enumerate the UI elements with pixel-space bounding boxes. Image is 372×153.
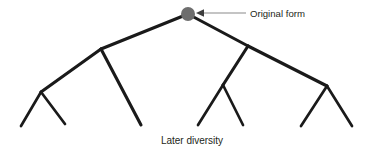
branch-left-junction-to-left-fork [41, 49, 101, 92]
branch-root-to-left-junction [101, 14, 188, 49]
branch-inner-fork-to-tip-5 [223, 85, 243, 125]
pointer-annotation [196, 9, 246, 17]
branch-right-junction-to-outer-fork [248, 46, 327, 86]
branch-right-junction-to-inner-fork [223, 46, 248, 85]
branch-root-to-right-junction [188, 14, 248, 46]
branch-inner-fork-to-tip-4 [198, 85, 223, 125]
tree-canvas: Original form Later diversity [0, 0, 372, 153]
root-node-circle [181, 7, 195, 21]
branch-left-junction-to-tip-3 [101, 49, 141, 125]
branch-outer-fork-to-tip-7 [327, 86, 352, 126]
evolution-tree-diagram: Original form Later diversity [0, 0, 372, 153]
branch-outer-fork-to-tip-6 [301, 86, 327, 126]
bottom-caption: Later diversity [161, 135, 223, 146]
arrow-left-icon [196, 9, 204, 17]
branch-group [21, 14, 352, 126]
branch-left-fork-to-tip-1 [21, 92, 41, 126]
branch-left-fork-to-tip-2 [41, 92, 65, 124]
root-label: Original form [250, 8, 305, 19]
